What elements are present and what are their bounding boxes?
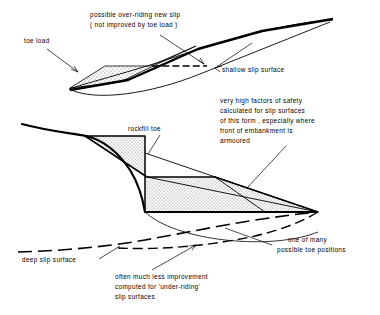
label-toe-load: toe load <box>24 37 50 44</box>
label-shallow-slip-surface: shallow slip surface <box>222 66 285 74</box>
top-section <box>47 19 333 95</box>
leader-overriding-slip-arrow <box>198 58 204 64</box>
deep-slip-surface-curve <box>18 212 318 252</box>
leader-toe-positions <box>225 228 272 245</box>
label-underriding-line2: computed for 'under-riding' <box>115 283 200 291</box>
toe-load-wedge <box>70 46 196 88</box>
label-high-fos-line3: of this form , especially where <box>220 117 315 125</box>
label-overriding-slip-line2: ( not improved by toe load ) <box>90 21 178 29</box>
label-high-fos-line2: calculated for slip surfaces <box>220 107 305 115</box>
label-underriding-line1: often much less improvement <box>115 273 208 281</box>
label-deep-slip-surface: deep slip surface <box>22 256 76 264</box>
label-toe-positions-line1: one of many <box>288 236 327 244</box>
underriding-slip-curve <box>118 212 318 249</box>
leader-underriding <box>152 245 196 270</box>
label-high-fos-line5: armoured <box>220 137 250 144</box>
leader-rockfill-toe <box>148 135 160 154</box>
label-toe-positions-line2: possible toe positions <box>277 246 346 254</box>
leader-high-fos <box>247 146 286 188</box>
leader-deep-slip <box>99 246 120 259</box>
leader-toe-load <box>47 49 78 72</box>
label-high-fos-line4: front of embankment is <box>220 127 293 134</box>
label-underriding-line3: slip surfaces <box>115 293 155 301</box>
slip-surface-figure: possible over-riding new slip ( not impr… <box>0 0 380 315</box>
label-overriding-slip-line1: possible over-riding new slip <box>90 11 181 19</box>
middle-section <box>22 124 318 212</box>
label-high-fos-line1: very high factors of safety <box>220 97 303 105</box>
label-rockfill-toe: rockfill toe <box>128 125 161 132</box>
